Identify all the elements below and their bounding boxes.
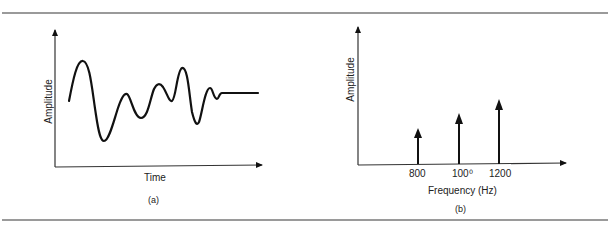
panel-a-caption: (a): [148, 195, 159, 205]
panel-b-ylabel: Amplitude: [345, 52, 356, 108]
tick-label-1200: 1200: [489, 168, 511, 179]
panel-b-caption: (b): [455, 204, 466, 214]
spectral-line-1000: [455, 113, 463, 164]
panel-a-axes: [55, 30, 262, 167]
tick-label-1000: 100⁰: [452, 168, 473, 179]
figure-canvas: [0, 0, 612, 227]
panel-a-ylabel: Amplitude: [43, 74, 54, 130]
panel-b-xlabel: Frequency (Hz): [428, 185, 497, 196]
panel-b-axes: [358, 27, 566, 165]
panel-a-xlabel: Time: [144, 172, 166, 183]
waveform-curve: [69, 61, 258, 141]
spectral-line-800: [414, 128, 422, 164]
tick-label-800: 800: [409, 168, 426, 179]
spectral-line-1200: [495, 99, 503, 164]
